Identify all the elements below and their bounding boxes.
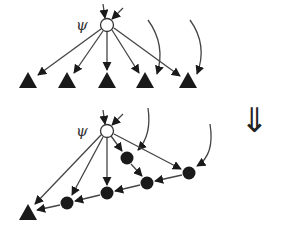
triangle-leaf-icon: [58, 72, 76, 88]
factor-graph-diagram: ψ ⇓ ψ: [0, 0, 290, 242]
incoming-edge: [103, 110, 105, 124]
black-node: [101, 187, 114, 200]
incoming-edge: [112, 114, 123, 125]
triangle-leaf-icon: [98, 72, 116, 88]
incoming-edge: [112, 8, 123, 19]
edge-to-leaf-2: [74, 31, 103, 73]
black-node: [121, 152, 134, 165]
psi-node-bottom: [101, 125, 114, 138]
curved-incoming-edge: [138, 108, 149, 150]
triangle-leaf-icon: [179, 72, 197, 88]
chain-edge: [131, 164, 142, 176]
chain-edge: [37, 205, 60, 210]
double-down-arrow-icon: ⇓: [240, 100, 269, 140]
chain-edge: [155, 175, 182, 181]
top-leaves: [19, 72, 197, 88]
curved-incoming-edge: [197, 124, 211, 166]
chain-edge: [115, 185, 140, 191]
triangle-leaf-icon: [136, 72, 154, 88]
top-graph: [38, 4, 201, 76]
black-node: [141, 177, 154, 190]
triangle-leaf-icon: [19, 204, 37, 220]
chain-edge: [75, 195, 100, 201]
triangle-leaf-icon: [19, 72, 37, 88]
edge-to-leaf-1: [38, 29, 101, 75]
incoming-edge: [103, 4, 105, 18]
black-node: [61, 197, 74, 210]
psi-label-top: ψ: [76, 16, 88, 34]
psi-edge: [35, 135, 101, 204]
curved-incoming-edge: [148, 20, 160, 74]
curved-incoming-edge: [190, 20, 201, 74]
black-node: [183, 167, 196, 180]
psi-label-bottom: ψ: [76, 122, 88, 140]
edge-to-leaf-5: [114, 28, 180, 76]
psi-edge: [72, 137, 103, 195]
chain-edge: [111, 136, 122, 151]
psi-node-top: [101, 19, 114, 32]
